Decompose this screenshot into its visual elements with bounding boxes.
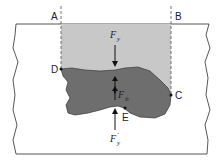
- label-d: D: [51, 64, 58, 75]
- point-d: [60, 68, 63, 71]
- force-fy-bottom: F ′ y: [109, 108, 121, 147]
- point-e: [124, 107, 127, 110]
- label-e: E: [122, 112, 129, 123]
- svg-text:F: F: [109, 133, 117, 144]
- label-c: C: [175, 90, 182, 101]
- svg-text:y: y: [116, 139, 121, 147]
- svg-text:′: ′: [117, 131, 119, 139]
- svg-text:F: F: [109, 29, 117, 40]
- svg-text:F: F: [117, 89, 125, 100]
- point-c: [170, 94, 173, 97]
- buoyancy-diagram: A B D C E F y F b F ′ y: [0, 0, 220, 163]
- label-b: B: [175, 11, 182, 22]
- svg-text:b: b: [125, 95, 129, 103]
- arrow-up-icon: [112, 108, 118, 114]
- label-a: A: [51, 11, 58, 22]
